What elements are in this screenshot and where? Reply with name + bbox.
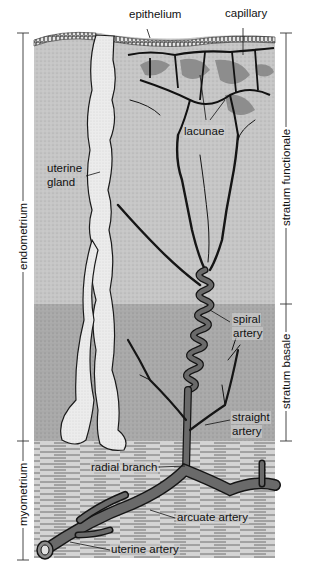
label-uterine-artery: uterine artery: [110, 543, 180, 556]
label-stratum-functionale: stratum functionale: [280, 127, 292, 228]
label-straight-artery-2: artery: [231, 425, 262, 438]
label-spiral-artery-2: artery: [232, 327, 263, 340]
label-radial-branch: radial branch: [90, 461, 158, 474]
label-uterine-gland-1: uterine: [47, 162, 82, 175]
label-arcuate-artery: arcuate artery: [176, 511, 249, 524]
label-uterine-gland-2: gland: [47, 176, 75, 189]
label-straight-artery-1: straight: [231, 411, 271, 424]
label-capillary: capillary: [225, 7, 267, 20]
label-stratum-basale: stratum basale: [280, 332, 292, 411]
label-lacunae: lacunae: [183, 125, 225, 138]
label-epithelium: epithelium: [129, 8, 181, 21]
label-spiral-artery-1: spiral: [232, 313, 261, 326]
endometrium-diagram: epithelium capillary lacunae uterine gla…: [0, 0, 310, 578]
label-endometrium: endometrium: [17, 201, 29, 272]
label-myometrium: myometrium: [17, 461, 29, 528]
diagram-artwork: [0, 0, 310, 578]
